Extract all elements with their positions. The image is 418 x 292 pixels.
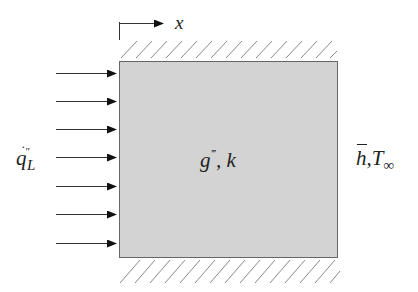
generation-symbol: g [200,148,211,172]
generation-conductivity-label: g‴, k [200,148,236,171]
convection-label: h,T∞ [356,148,394,173]
top-boundary-hatching [121,41,337,58]
t-symbol: ,T [367,146,384,170]
h-symbol: h [356,146,367,170]
bottom-boundary-hatching [120,260,340,283]
t-infinity-subscript: ∞ [383,157,394,173]
x-axis-label: x [175,13,183,32]
flux-dot: ˙ [21,145,26,159]
flux-subscript: L [27,157,35,173]
heat-flux-arrows [56,74,116,244]
x-axis [119,22,163,40]
left-heat-flux-label: q˙″L [16,146,35,173]
h-overbar [357,144,367,145]
conductivity-symbol: , k [216,148,236,172]
